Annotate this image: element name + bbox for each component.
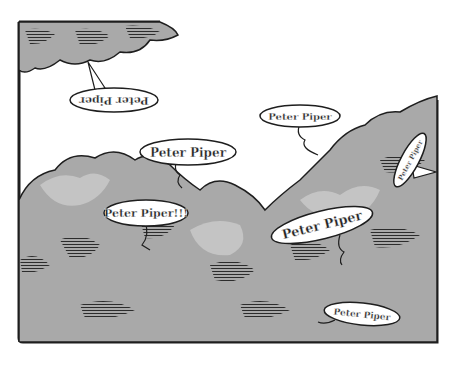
bubble-text: Peter Piper — [79, 94, 149, 107]
bubble-text: Peter Piper — [268, 111, 332, 122]
bubble-text: Peter Piper — [150, 146, 227, 160]
comic-panel: Peter Piper Peter Piper Peter Piper Pete… — [0, 0, 456, 366]
bubble-text: Peter Piper!!! — [104, 207, 188, 220]
speech-bubble: Peter Piper — [70, 62, 158, 112]
speech-bubble: Peter Piper — [260, 105, 340, 155]
